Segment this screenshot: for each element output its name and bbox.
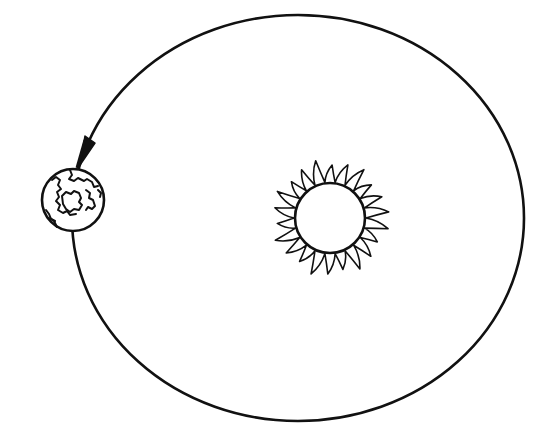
diagram-canvas bbox=[0, 0, 547, 433]
orbit-direction-arrow bbox=[77, 136, 95, 168]
earth-icon bbox=[42, 169, 104, 231]
orbit-diagram: Earth orbiting the Sun along an elliptic… bbox=[0, 0, 547, 433]
sun-icon bbox=[275, 161, 389, 274]
